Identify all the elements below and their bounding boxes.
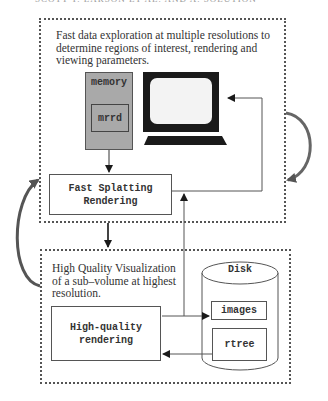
images-label: images [221,305,257,316]
rtree-box: rtree [212,328,267,361]
images-box: images [211,301,267,320]
disk-label: Disk [218,264,262,275]
rtree-label: rtree [224,339,254,350]
diagram-lines [0,0,328,401]
